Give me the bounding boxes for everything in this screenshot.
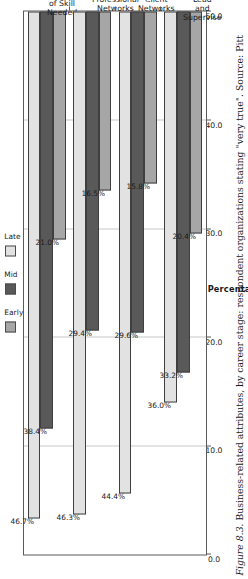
figure-caption: Figure 8.3. Business-related attributes,… xyxy=(232,0,248,579)
value-tick-label: 0.0 xyxy=(208,555,220,563)
bar-value-label: 46.7% xyxy=(11,517,34,524)
bar-mid xyxy=(40,11,53,428)
plot-wrapper: Percentage 50.040.030.020.010.00.0 46.7%… xyxy=(23,10,207,555)
axis-tick xyxy=(207,119,211,120)
axis-tick xyxy=(207,554,211,555)
legend-label: Mid xyxy=(5,271,16,278)
category-axis-tick xyxy=(115,6,116,10)
figure-caption-text: Business-related attributes, by career s… xyxy=(234,35,245,523)
category-axis-tick xyxy=(69,6,70,10)
legend-entry-mid: Mid xyxy=(5,269,16,294)
category-group: 36.0%33.2%20.4% xyxy=(161,11,207,554)
bar-late xyxy=(28,11,41,518)
value-tick-label: 20.0 xyxy=(206,338,223,346)
bar-late xyxy=(119,11,132,493)
figure-caption-container: Figure 8.3. Business-related attributes,… xyxy=(232,0,248,579)
chart-legend: EarlyMidLate xyxy=(2,231,18,332)
axis-tick xyxy=(207,336,211,337)
figure-caption-number: Figure 8.3. xyxy=(234,523,245,575)
bar-late xyxy=(164,11,177,402)
category-label: Client Networks xyxy=(138,0,175,12)
figure-rotator: EarlyMidLate Percentage 50.040.030.020.0… xyxy=(0,0,248,579)
category-group: 44.4%29.6%15.8% xyxy=(115,11,161,554)
bar-value-label: 29.6% xyxy=(114,332,137,339)
category-group: 46.7%38.4%21.0% xyxy=(24,11,70,554)
bar-early xyxy=(99,11,112,190)
category-axis-tick xyxy=(160,6,161,10)
bar-value-label: 21.0% xyxy=(36,238,59,245)
legend-label: Late xyxy=(5,233,16,240)
axis-tick xyxy=(207,228,211,229)
value-tick-label: 10.0 xyxy=(206,446,223,454)
bar-value-label: 38.4% xyxy=(23,427,46,434)
legend-entry-early: Early xyxy=(5,307,16,332)
bar-mid xyxy=(86,11,99,330)
bar-mid xyxy=(131,11,144,332)
bar-mid xyxy=(177,11,190,372)
bar-value-label: 16.5% xyxy=(81,190,104,197)
bar-value-label: 36.0% xyxy=(147,401,170,408)
legend-swatch-icon xyxy=(5,245,16,256)
value-tick-label: 30.0 xyxy=(206,229,223,237)
bar-value-label: 33.2% xyxy=(160,371,183,378)
bar-chart-figure: EarlyMidLate Percentage 50.040.030.020.0… xyxy=(0,0,248,579)
value-tick-label: 40.0 xyxy=(206,121,223,129)
bar-late xyxy=(73,11,86,514)
bar-value-label: 15.8% xyxy=(127,182,150,189)
legend-swatch-icon xyxy=(5,321,16,332)
bar-early xyxy=(190,11,203,233)
category-label: Professional Networks xyxy=(92,0,139,12)
category-group: 46.3%29.4%16.5% xyxy=(70,11,116,554)
plot-area: 46.7%38.4%21.0%Level of Skill Needed46.3… xyxy=(23,10,207,555)
bar-value-label: 29.4% xyxy=(69,330,92,337)
bar-early xyxy=(144,11,157,183)
legend-entry-late: Late xyxy=(5,231,16,256)
bar-value-label: 20.4% xyxy=(172,232,195,239)
category-label: Want to Lead and Supervise xyxy=(183,0,221,21)
bar-value-label: 44.4% xyxy=(102,492,125,499)
legend-label: Early xyxy=(5,309,16,316)
axis-tick xyxy=(207,445,211,446)
bar-early xyxy=(53,11,66,239)
bar-value-label: 46.3% xyxy=(56,513,79,520)
legend-swatch-icon xyxy=(5,283,16,294)
